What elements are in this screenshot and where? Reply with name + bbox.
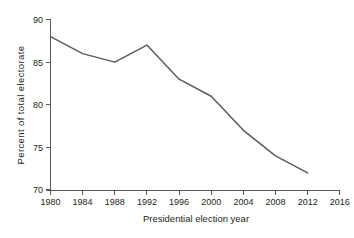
line-chart: 90 85 80 75 70 1980 1984 1988 1992 1996 xyxy=(0,0,354,238)
y-tick-label-80: 80 xyxy=(33,100,43,110)
x-tick-label-2008: 2008 xyxy=(265,197,285,207)
data-series-line xyxy=(51,37,308,173)
y-tick-label-75: 75 xyxy=(33,143,43,153)
x-axis-title: Presidential election year xyxy=(143,213,249,224)
x-tick-label-2012: 2012 xyxy=(298,197,318,207)
x-axis-ticks xyxy=(51,191,340,196)
x-tick-label-1992: 1992 xyxy=(137,197,157,207)
y-axis-tick-labels: 90 85 80 75 70 xyxy=(33,15,43,196)
x-tick-label-1996: 1996 xyxy=(169,197,189,207)
y-axis-ticks xyxy=(46,20,51,191)
x-tick-label-2000: 2000 xyxy=(201,197,221,207)
x-tick-label-1984: 1984 xyxy=(73,197,93,207)
y-tick-label-70: 70 xyxy=(33,185,43,195)
y-tick-label-85: 85 xyxy=(33,58,43,68)
x-tick-label-2016: 2016 xyxy=(330,197,350,207)
x-tick-label-1980: 1980 xyxy=(40,197,60,207)
y-axis-title: Percent of total electorate xyxy=(15,45,26,164)
x-tick-label-2004: 2004 xyxy=(233,197,253,207)
x-tick-label-1988: 1988 xyxy=(105,197,125,207)
chart-container: 90 85 80 75 70 1980 1984 1988 1992 1996 xyxy=(0,0,354,238)
x-axis-tick-labels: 1980 1984 1988 1992 1996 2000 2004 2008 … xyxy=(40,197,349,207)
y-tick-label-90: 90 xyxy=(33,15,43,25)
